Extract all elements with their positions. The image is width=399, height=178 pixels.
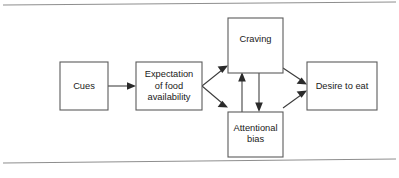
edge-expectation-to-craving xyxy=(202,66,228,87)
node-cues[interactable]: Cues xyxy=(60,62,108,110)
node-expectation-label-line1: Expectation xyxy=(145,69,194,79)
node-expectation-label-line3: availability xyxy=(148,92,191,102)
edge-cues-to-expectation xyxy=(108,82,136,90)
edge-attentional-bias-to-desire xyxy=(283,91,307,109)
edge-attentional-bias-to-craving xyxy=(238,72,246,112)
node-craving-label: Craving xyxy=(239,34,271,44)
node-attentional-bias-label-line2: bias xyxy=(247,134,264,144)
node-cues-label: Cues xyxy=(73,81,95,91)
node-desire-to-eat[interactable]: Desire to eat xyxy=(307,62,377,110)
node-craving[interactable]: Craving xyxy=(228,18,283,73)
node-attentional-bias-label-line1: Attentional xyxy=(234,123,278,133)
node-desire-to-eat-label: Desire to eat xyxy=(316,81,369,91)
edge-expectation-to-attentional-bias xyxy=(202,86,228,108)
edge-craving-to-desire xyxy=(283,68,307,85)
node-expectation-label-line2: of food xyxy=(155,81,183,91)
figure-container: Cues Expectation of food availability Cr… xyxy=(0,0,399,178)
node-expectation[interactable]: Expectation of food availability xyxy=(136,62,202,110)
edge-craving-to-attentional-bias xyxy=(255,73,263,112)
bottom-page-rule xyxy=(3,159,396,163)
node-craving-box xyxy=(228,18,283,73)
flow-diagram: Cues Expectation of food availability Cr… xyxy=(0,0,399,178)
node-attentional-bias[interactable]: Attentional bias xyxy=(228,112,283,157)
top-page-rule xyxy=(3,2,396,5)
